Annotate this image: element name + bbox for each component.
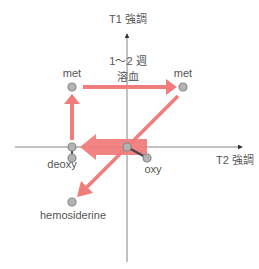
node-center <box>123 143 131 151</box>
label-deoxy: deoxy <box>47 159 76 170</box>
label-met-left: met <box>63 68 81 79</box>
arrow-deoxy-to-met-head <box>64 94 80 104</box>
label-met-right: met <box>174 68 192 79</box>
node-hemosiderine <box>68 198 76 206</box>
x-axis-label: T2 強調 <box>216 155 254 166</box>
node-oxy <box>143 154 151 162</box>
annotation-line2: 溶血 <box>117 72 139 83</box>
label-oxy: oxy <box>144 164 161 175</box>
y-axis-label: T1 強調 <box>109 14 147 25</box>
arrow-met-to-met-head <box>166 79 177 95</box>
node-deoxy-top <box>68 143 76 151</box>
label-hemosiderine: hemosiderine <box>40 210 106 221</box>
node-met-right <box>179 83 187 91</box>
node-met-left <box>68 83 76 91</box>
diagram-canvas <box>0 0 259 269</box>
annotation-line1: 1～2 週 <box>109 56 146 67</box>
